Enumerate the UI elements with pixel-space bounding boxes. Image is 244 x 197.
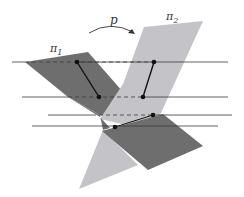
diagram-canvas: p π2 π1 [0, 0, 244, 197]
point-intersect-left [113, 125, 118, 130]
projection-diagram: p π2 π1 [0, 0, 244, 197]
plane1-label: π1 [49, 42, 62, 57]
point-pi1-bottom [97, 95, 102, 100]
plane2-label: π2 [165, 10, 178, 25]
point-pi2-top [152, 60, 157, 65]
map-arrow [89, 26, 133, 33]
map-label: p [110, 13, 118, 27]
point-pi2-bottom [141, 95, 146, 100]
point-intersect-right [151, 113, 156, 118]
point-pi1-top [75, 60, 80, 65]
